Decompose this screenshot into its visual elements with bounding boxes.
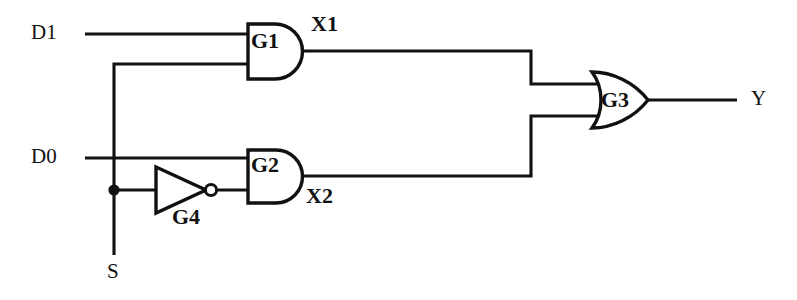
wire-junction-dot — [108, 184, 119, 195]
gate-label-g2: G2 — [251, 154, 279, 176]
gate-label-g4: G4 — [172, 206, 200, 228]
input-label-d0: D0 — [31, 146, 57, 167]
circuit-diagram: D1 D0 S Y X1 X2 G1 G2 G3 G4 — [0, 0, 797, 300]
gate-label-g3: G3 — [601, 89, 629, 111]
circuit-canvas — [0, 0, 797, 300]
wire-x1-to-g3 — [302, 51, 598, 84]
wire-x2-to-g3 — [302, 116, 598, 176]
output-label-y: Y — [751, 88, 766, 109]
input-label-d1: D1 — [31, 22, 57, 43]
inverter-bubble-icon — [205, 184, 216, 195]
net-label-x1: X1 — [311, 13, 338, 35]
input-label-s: S — [107, 261, 119, 282]
net-label-x2: X2 — [306, 185, 333, 207]
gate-label-g1: G1 — [251, 30, 279, 52]
